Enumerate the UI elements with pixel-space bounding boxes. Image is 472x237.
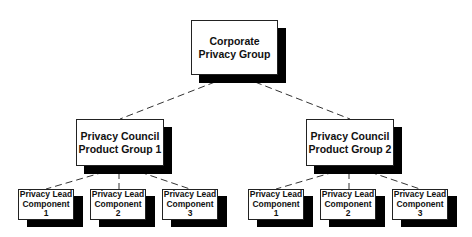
node-label-line3: 3 <box>418 209 423 219</box>
node-corporate-privacy-group: Corporate Privacy Group <box>191 20 286 83</box>
node-privacy-lead-g2-c3: Privacy Lead Component 3 <box>392 189 457 227</box>
node-label-line3: 2 <box>116 209 121 219</box>
node-box: Privacy Lead Component 3 <box>162 189 218 220</box>
node-label-line1: Privacy Council <box>311 130 390 143</box>
node-box: Privacy Lead Component 2 <box>320 189 376 220</box>
node-label-line1: Privacy Council <box>81 130 160 143</box>
node-label-line3: 3 <box>188 209 193 219</box>
node-label-line1: Corporate <box>209 35 259 48</box>
node-label-line2: Product Group 1 <box>79 143 162 156</box>
node-box: Privacy Lead Component 1 <box>248 189 304 220</box>
node-privacy-lead-g1-c3: Privacy Lead Component 3 <box>162 189 227 227</box>
node-box: Privacy Lead Component 2 <box>90 189 146 220</box>
node-privacy-council-group-1: Privacy Council Product Group 1 <box>76 119 172 174</box>
connector-g1-c1 <box>46 172 104 189</box>
node-box: Privacy Lead Component 3 <box>392 189 448 220</box>
node-privacy-lead-g1-c2: Privacy Lead Component 2 <box>90 189 155 227</box>
node-label-line2: Product Group 2 <box>309 143 392 156</box>
connector-g2-c3 <box>370 172 420 189</box>
connector-g1-c3 <box>140 172 190 189</box>
node-privacy-lead-g1-c1: Privacy Lead Component 1 <box>18 189 83 227</box>
node-privacy-council-group-2: Privacy Council Product Group 2 <box>306 119 402 174</box>
node-privacy-lead-g2-c2: Privacy Lead Component 2 <box>320 189 385 227</box>
node-label-line3: 1 <box>44 209 49 219</box>
node-label-line2: Privacy Group <box>199 48 271 61</box>
node-box: Privacy Council Product Group 2 <box>306 119 394 166</box>
node-box: Privacy Lead Component 1 <box>18 189 74 220</box>
connector-root-group1 <box>120 82 215 119</box>
node-label-line3: 1 <box>274 209 279 219</box>
node-privacy-lead-g2-c1: Privacy Lead Component 1 <box>248 189 313 227</box>
node-box: Privacy Council Product Group 1 <box>76 119 164 166</box>
node-label-line3: 2 <box>346 209 351 219</box>
node-box: Corporate Privacy Group <box>191 20 278 75</box>
connector-root-group2 <box>255 82 350 119</box>
connector-g2-c1 <box>276 172 334 189</box>
